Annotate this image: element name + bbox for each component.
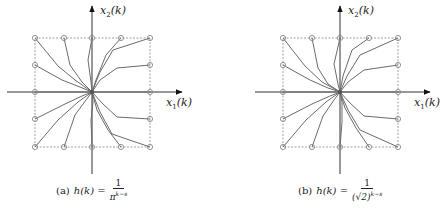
origin-point [338,90,342,94]
trajectory [340,38,398,92]
phase-portrait-b [0,0,442,208]
caption-b: (b) h(k) = 1 (√2)k−s [298,178,382,202]
trajectory [340,65,398,92]
trajectory [340,92,398,147]
x-axis-label-b: x1(k) [414,96,440,111]
trajectory [334,38,340,92]
trajectory [283,65,340,92]
trajectory [312,92,340,147]
trajectory [283,38,340,92]
y-axis-label-b: x2(k) [348,4,374,19]
caption-tag: (b) [298,185,312,196]
panel-b: x2(k) x1(k) (b) h(k) = 1 (√2)k−s [0,0,442,208]
caption-lhs: h(k) = [316,185,348,196]
trajectory [283,92,340,147]
caption-fraction: 1 (√2)k−s [352,178,382,202]
trajectory [340,38,369,92]
trajectory [340,92,369,147]
